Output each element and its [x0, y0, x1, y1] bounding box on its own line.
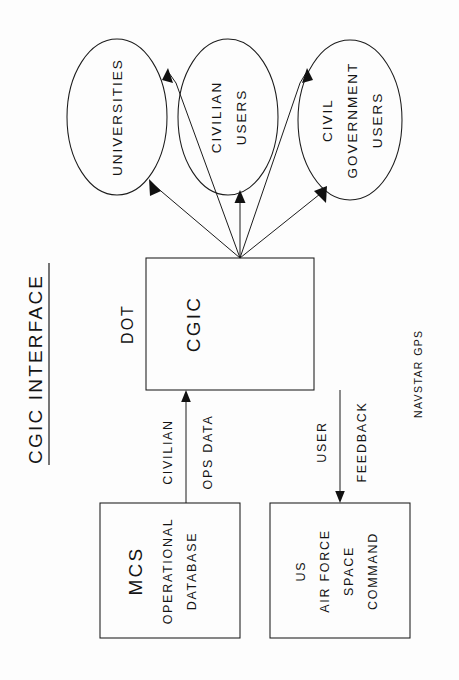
usaf-label-line-3: SPACE [342, 546, 356, 596]
civil-gov-label-line-2: GOVERNMENT [345, 62, 360, 179]
usaf-space-command-rect[interactable] [270, 503, 410, 638]
mcs-block-sublabel-line-2: DATABASE [185, 532, 199, 610]
universities-label: UNIVERSITIES [110, 58, 125, 176]
edge-cgic-to-universities [149, 179, 240, 258]
civil-gov-label-line-1: CIVIL [320, 98, 335, 142]
cgic-block[interactable]: CGIC [146, 258, 314, 390]
civil-gov-label-line-3: USERS [370, 92, 385, 149]
cgic-block-rect[interactable] [146, 258, 314, 390]
edge-mcs-to-cgic-arrowhead [181, 390, 191, 402]
edge-cgic-to-usaf-label-line-2: FEEDBACK [355, 402, 369, 483]
page-title: CGIC INTERFACE [25, 274, 46, 464]
dot-label: DOT [119, 304, 136, 344]
mcs-block-sublabel-line-1: OPERATIONAL [161, 518, 175, 625]
edge-cgic-to-universities-arrowhead [149, 179, 161, 196]
edge-cgic-to-civilian-users-arrowhead [235, 190, 246, 203]
diagram-page: CGIC INTERFACE NAVSTAR GPS CGIC DOT MCS … [0, 0, 459, 680]
edge-cgic-past-universities [162, 68, 240, 258]
edge-cgic-to-civil-government-users [240, 186, 327, 258]
edge-cgic-to-civil-gov-arrowhead [314, 186, 327, 203]
edge-mcs-to-cgic-label-line-2: OPS DATA [201, 415, 215, 490]
universities-node[interactable]: UNIVERSITIES [67, 39, 167, 195]
civilian-users-ellipse[interactable] [178, 39, 278, 195]
cgic-block-label: CGIC [183, 296, 204, 352]
page-title-group: CGIC INTERFACE [25, 263, 49, 465]
navstar-gps-note: NAVSTAR GPS [412, 329, 424, 418]
edge-cgic-to-civil-gov-line [240, 194, 320, 258]
edge-cgic-past-universities-line-a [176, 83, 240, 258]
civil-government-users-node[interactable]: CIVIL GOVERNMENT USERS [298, 40, 402, 200]
civilian-users-node[interactable]: CIVILIAN USERS [178, 39, 278, 195]
edge-cgic-to-usaf-arrowhead [335, 491, 345, 503]
usaf-space-command-block[interactable]: US AIR FORCE SPACE COMMAND [270, 503, 410, 638]
cgic-interface-diagram: CGIC INTERFACE NAVSTAR GPS CGIC DOT MCS … [0, 0, 459, 680]
usaf-label-line-2: AIR FORCE [318, 529, 332, 612]
edge-mcs-to-cgic: CIVILIAN OPS DATA [161, 390, 215, 503]
civilian-users-label-line-2: USERS [234, 89, 249, 146]
edge-cgic-past-civilian-arrowhead [302, 68, 313, 83]
civilian-users-label-line-1: CIVILIAN [209, 81, 224, 153]
edge-cgic-to-usaf-label-line-1: USER [315, 421, 329, 463]
mcs-block[interactable]: MCS OPERATIONAL DATABASE [100, 503, 240, 638]
edge-cgic-past-civilian-line-a [240, 83, 300, 258]
mcs-block-label: MCS [125, 547, 146, 596]
usaf-label-line-1: US [294, 561, 308, 582]
usaf-label-line-4: COMMAND [366, 532, 380, 610]
edge-cgic-to-usaf: USER FEEDBACK [315, 390, 369, 503]
edge-mcs-to-cgic-label-line-1: CIVILIAN [161, 419, 175, 485]
